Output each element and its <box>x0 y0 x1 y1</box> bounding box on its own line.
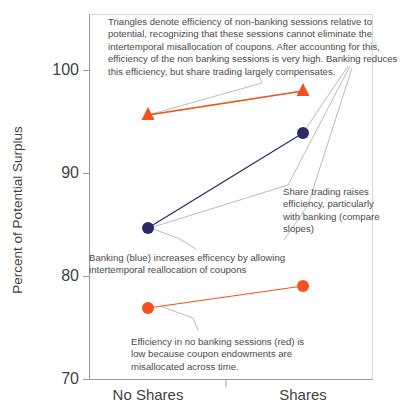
chart-container: 100 90 80 70 No Shares Shares Percent of… <box>0 0 405 417</box>
annotation-no-banking-note: Efficiency in no banking sessions (red) … <box>131 336 321 373</box>
marker-triangle-shares <box>297 83 310 96</box>
leader-line-banking-note <box>150 228 196 249</box>
series-line-triangles <box>148 91 303 115</box>
y-tick-label-90: 90 <box>61 164 79 181</box>
series-line-banking <box>148 133 303 228</box>
y-tick-label-80: 80 <box>61 267 79 284</box>
marker-circle-no-banking-no-shares <box>142 302 154 314</box>
marker-circle-banking-no-shares <box>142 222 154 234</box>
marker-circle-banking-shares <box>297 127 309 139</box>
y-axis-title: Percent of Potential Surplus <box>10 126 25 294</box>
series-line-no-banking <box>148 286 303 308</box>
annotation-share-trading-note: Share trading raises efficiency, particu… <box>283 186 393 236</box>
x-tick-label-no-shares: No Shares <box>113 386 184 403</box>
y-tick-label-70: 70 <box>61 370 79 387</box>
marker-circle-no-banking-shares <box>297 280 309 292</box>
annotation-banking-note: Banking (blue) increases efficency by al… <box>89 252 289 277</box>
leader-line-nobanking-note <box>160 306 198 330</box>
leader-line-top-note <box>148 73 262 115</box>
annotation-triangles-note: Triangles denote efficiency of non-banki… <box>108 16 405 78</box>
y-tick-label-100: 100 <box>52 61 79 78</box>
x-tick-label-shares: Shares <box>279 386 327 403</box>
